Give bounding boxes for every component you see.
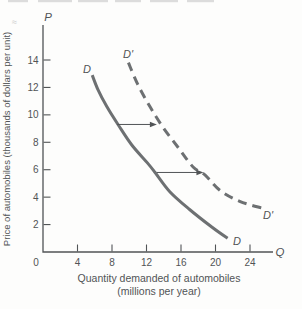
- demand-curves: [92, 63, 262, 239]
- x-tick-label: 12: [141, 257, 153, 268]
- y-tick-label: 8: [33, 137, 39, 148]
- axes: [43, 25, 273, 252]
- y-axis-title: Price of automobiles (thousands of dolla…: [1, 32, 12, 246]
- y-tick-label: 14: [27, 55, 39, 66]
- rightward-shift-arrow: [117, 122, 157, 128]
- y-tick-label: 4: [33, 192, 39, 203]
- x-axis-title-line1: Quantity demanded of automobiles: [78, 272, 241, 284]
- shift-arrows: [117, 122, 203, 176]
- p-axis-label: P: [44, 11, 52, 23]
- x-axis-title-line2: (millions per year): [117, 285, 200, 297]
- curve-label-dprime-bottom: D': [263, 209, 274, 221]
- x-tick-label: 20: [210, 257, 222, 268]
- x-tick-label: 0: [33, 257, 39, 268]
- demand-shift-chart: ≈ 246810121404812162024 P Q Price of aut…: [0, 0, 302, 309]
- curve-label-d-bottom: D: [233, 235, 241, 247]
- x-tick-label: 8: [109, 257, 115, 268]
- x-tick-label: 16: [175, 257, 187, 268]
- x-tick-label: 4: [75, 257, 81, 268]
- q-axis-label: Q: [276, 246, 285, 258]
- y-tick-label: 6: [33, 164, 39, 175]
- y-tick-label: 2: [33, 219, 39, 230]
- demand-curve-figure: ≈ 246810121404812162024 P Q Price of aut…: [0, 0, 302, 309]
- demand-curve-shifted: [128, 63, 262, 208]
- x-tick-label: 24: [244, 257, 256, 268]
- rightward-shift-arrow: [157, 170, 204, 176]
- y-tick-label: 12: [27, 82, 39, 93]
- cropped-text-remnant: [8, 0, 214, 2]
- curve-label-dprime-top: D': [123, 48, 134, 60]
- y-tick-label: 10: [27, 109, 39, 120]
- demand-curve: [92, 75, 227, 238]
- curve-label-d-top: D: [83, 63, 91, 75]
- cropped-text-squiggle: ≈: [12, 17, 17, 27]
